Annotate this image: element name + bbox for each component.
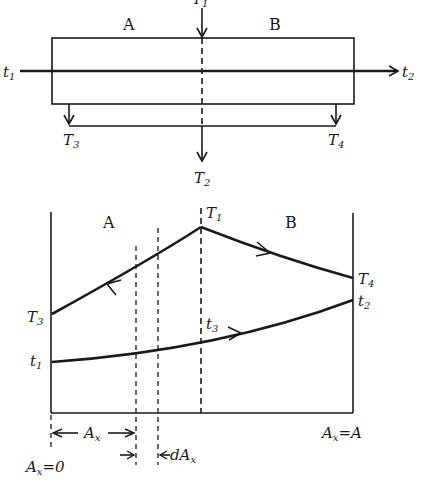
label-T1-peak: T1 xyxy=(206,204,222,223)
label-t1-top: t1 xyxy=(3,63,15,82)
label-t2-top: t2 xyxy=(402,63,414,82)
label-region-a: A xyxy=(122,15,135,34)
temperature-profile: A B T1 T3 T4 t2 t1 t3 Ax dAx Ax=0 Ax=A xyxy=(24,204,374,477)
label-t2-right: t2 xyxy=(358,292,370,311)
label-ax-full: Ax=A xyxy=(320,424,362,443)
hot-curve-b xyxy=(201,227,353,278)
hot-curve-a xyxy=(52,227,201,314)
label-T4-right: T4 xyxy=(358,270,374,289)
label-T4-top: T4 xyxy=(328,131,344,150)
label-T3-top: T3 xyxy=(63,131,79,150)
label-t3-mid: t3 xyxy=(206,315,218,334)
top-schematic: A B T1 t1 t2 T3 T4 T2 xyxy=(3,0,414,188)
label-T1-top: T1 xyxy=(192,0,208,9)
label-T3-left: T3 xyxy=(27,308,43,327)
label-region-a-bottom: A xyxy=(102,213,115,232)
label-ax: Ax xyxy=(82,424,101,443)
label-ax-zero: Ax=0 xyxy=(24,458,65,477)
heat-exchanger-diagram: A B T1 t1 t2 T3 T4 T2 A B T1 T3 T4 t2 t1… xyxy=(0,0,422,491)
label-region-b: B xyxy=(269,15,281,34)
label-T2-top: T2 xyxy=(194,169,210,188)
label-t1-left: t1 xyxy=(30,352,42,371)
label-dax: dAx xyxy=(170,446,196,465)
cold-curve xyxy=(52,300,353,362)
cold-arrow xyxy=(228,327,241,340)
label-region-b-bottom: B xyxy=(285,213,297,232)
